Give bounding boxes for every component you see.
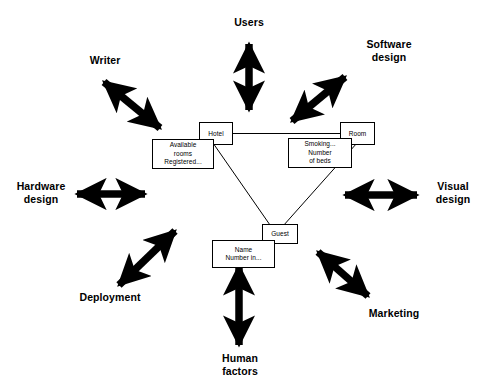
stakeholder-visual-design[interactable]: Visual design (425, 180, 481, 206)
stakeholder-deployment[interactable]: Deployment (62, 291, 158, 304)
attributes-guest-text: Name Number in... (225, 246, 261, 263)
attributes-guest[interactable]: Name Number in... (212, 240, 275, 268)
stakeholder-software-design[interactable]: Software design (340, 38, 438, 64)
attributes-room[interactable]: Smoking... Number of beds (288, 138, 352, 168)
attributes-hotel[interactable]: Available rooms Registered... (152, 139, 214, 169)
entity-room-label: Room (349, 130, 367, 138)
entity-guest-label: Guest (271, 230, 289, 238)
stakeholder-human-factors[interactable]: Human factors (198, 352, 282, 378)
stakeholder-writer[interactable]: Writer (70, 54, 140, 67)
entity-hotel-label: Hotel (208, 130, 223, 138)
arrow-northeast (292, 77, 345, 121)
arrow-northwest (104, 82, 160, 128)
attributes-hotel-text: Available rooms Registered... (164, 141, 202, 167)
stakeholder-users[interactable]: Users (209, 16, 289, 29)
attributes-room-text: Smoking... Number of beds (304, 140, 335, 166)
stakeholder-marketing[interactable]: Marketing (353, 307, 435, 320)
diagram-canvas: Hotel Room Guest Available rooms Registe… (0, 0, 482, 391)
stakeholder-hardware-design[interactable]: Hardware design (6, 180, 76, 206)
arrow-southeast (318, 252, 368, 296)
arrow-southwest (119, 231, 175, 285)
